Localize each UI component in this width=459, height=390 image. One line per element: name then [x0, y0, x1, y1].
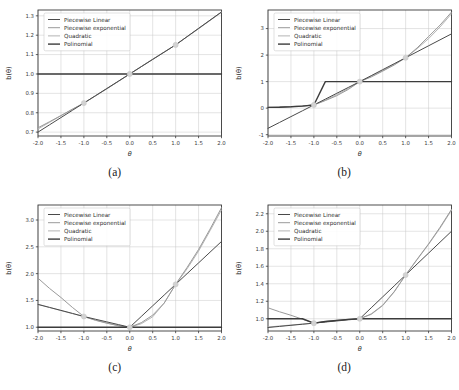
svg-text:-1.0: -1.0	[308, 335, 319, 341]
svg-text:2.0: 2.0	[217, 140, 226, 146]
panel-caption-b: (b)	[230, 166, 459, 178]
svg-text:-0.5: -0.5	[331, 140, 342, 146]
svg-text:1.5: 1.5	[194, 335, 203, 341]
panel-a: -2.0-1.5-1.0-0.50.00.51.01.52.00.70.80.9…	[0, 0, 230, 195]
svg-text:-2.0: -2.0	[262, 335, 273, 341]
svg-text:-0.5: -0.5	[102, 140, 113, 146]
plot-area-c: -2.0-1.5-1.0-0.50.00.51.01.52.01.01.52.0…	[0, 195, 230, 363]
svg-text:Quadratic: Quadratic	[64, 228, 91, 234]
svg-text:b(θ): b(θ)	[235, 261, 243, 274]
svg-text:θ: θ	[128, 150, 132, 158]
svg-text:θ: θ	[357, 150, 361, 158]
svg-text:2.5: 2.5	[25, 244, 34, 250]
svg-text:θ: θ	[128, 345, 132, 353]
svg-text:-1: -1	[258, 132, 263, 138]
svg-text:0.0: 0.0	[355, 140, 364, 146]
panel-caption-c: (c)	[0, 361, 230, 373]
svg-text:b(θ): b(θ)	[5, 66, 13, 79]
svg-text:-0.5: -0.5	[102, 335, 113, 341]
svg-text:2.0: 2.0	[255, 228, 264, 234]
svg-text:1.5: 1.5	[194, 140, 203, 146]
svg-text:1.2: 1.2	[25, 32, 34, 38]
svg-text:Piecewise Linear: Piecewise Linear	[294, 17, 341, 23]
svg-text:1.8: 1.8	[255, 246, 264, 252]
svg-text:2.0: 2.0	[447, 335, 456, 341]
svg-text:-2.0: -2.0	[33, 335, 44, 341]
svg-text:1.3: 1.3	[25, 13, 34, 19]
svg-text:1.5: 1.5	[424, 335, 433, 341]
svg-text:1.0: 1.0	[401, 140, 410, 146]
svg-text:0.7: 0.7	[25, 129, 34, 135]
svg-text:0.0: 0.0	[125, 140, 134, 146]
svg-text:Piecewise Linear: Piecewise Linear	[64, 17, 111, 23]
svg-text:1.0: 1.0	[171, 140, 180, 146]
svg-text:1.0: 1.0	[25, 71, 34, 77]
svg-text:0.0: 0.0	[355, 335, 364, 341]
svg-text:-2.0: -2.0	[262, 140, 273, 146]
svg-text:Piecewise Linear: Piecewise Linear	[64, 212, 111, 218]
svg-text:0.5: 0.5	[378, 335, 387, 341]
panel-d: -2.0-1.5-1.0-0.50.00.51.01.52.01.01.21.4…	[230, 195, 459, 390]
plot-area-b: -2.0-1.5-1.0-0.50.00.51.01.52.0-10123θb(…	[230, 0, 459, 168]
plot-area-d: -2.0-1.5-1.0-0.50.00.51.01.52.01.01.21.4…	[230, 195, 459, 363]
svg-text:θ: θ	[357, 345, 361, 353]
svg-text:2.2: 2.2	[255, 211, 264, 217]
svg-text:-2.0: -2.0	[33, 140, 44, 146]
svg-text:Piecewise exponential: Piecewise exponential	[294, 220, 356, 227]
svg-text:-1.5: -1.5	[285, 140, 296, 146]
svg-text:0: 0	[260, 105, 264, 111]
svg-text:3.0: 3.0	[25, 217, 34, 223]
panel-caption-a: (a)	[0, 166, 230, 178]
svg-text:2: 2	[260, 52, 263, 58]
svg-text:-1.0: -1.0	[79, 140, 90, 146]
svg-text:2.0: 2.0	[447, 140, 456, 146]
svg-text:-0.5: -0.5	[331, 335, 342, 341]
svg-text:1.0: 1.0	[171, 335, 180, 341]
svg-text:0.0: 0.0	[125, 335, 134, 341]
svg-text:3: 3	[260, 25, 263, 31]
svg-text:Piecewise exponential: Piecewise exponential	[294, 25, 356, 32]
svg-text:b(θ): b(θ)	[5, 261, 13, 274]
svg-text:Piecewise Linear: Piecewise Linear	[294, 212, 341, 218]
svg-text:2.0: 2.0	[217, 335, 226, 341]
svg-text:1.0: 1.0	[25, 324, 34, 330]
svg-text:-1.5: -1.5	[56, 335, 67, 341]
panel-caption-d: (d)	[230, 361, 459, 373]
svg-text:-1.5: -1.5	[285, 335, 296, 341]
svg-text:-1.0: -1.0	[308, 140, 319, 146]
figure-grid: -2.0-1.5-1.0-0.50.00.51.01.52.00.70.80.9…	[0, 0, 459, 390]
svg-text:Quadratic: Quadratic	[294, 228, 321, 234]
svg-text:Quadratic: Quadratic	[294, 33, 321, 39]
svg-text:0.9: 0.9	[25, 90, 34, 96]
svg-text:Piecewise exponential: Piecewise exponential	[64, 25, 126, 32]
svg-text:1.5: 1.5	[424, 140, 433, 146]
plot-area-a: -2.0-1.5-1.0-0.50.00.51.01.52.00.70.80.9…	[0, 0, 230, 168]
svg-text:1.4: 1.4	[255, 281, 264, 287]
svg-text:1.1: 1.1	[25, 51, 34, 57]
svg-text:1.5: 1.5	[25, 297, 34, 303]
svg-text:0.5: 0.5	[148, 335, 157, 341]
svg-text:-1.5: -1.5	[56, 140, 67, 146]
svg-text:Quadratic: Quadratic	[64, 33, 91, 39]
svg-text:-1.0: -1.0	[79, 335, 90, 341]
svg-text:Polinomial: Polinomial	[64, 236, 93, 242]
svg-text:0.8: 0.8	[25, 110, 34, 116]
svg-text:0.5: 0.5	[378, 140, 387, 146]
svg-text:1.0: 1.0	[401, 335, 410, 341]
svg-text:Polinomial: Polinomial	[294, 236, 323, 242]
svg-text:1: 1	[260, 79, 263, 85]
svg-text:2.0: 2.0	[25, 271, 34, 277]
panel-b: -2.0-1.5-1.0-0.50.00.51.01.52.0-10123θb(…	[230, 0, 459, 195]
svg-text:Polinomial: Polinomial	[294, 41, 323, 47]
svg-text:1.2: 1.2	[255, 298, 264, 304]
svg-text:Polinomial: Polinomial	[64, 41, 93, 47]
svg-text:b(θ): b(θ)	[235, 66, 243, 79]
svg-text:Piecewise exponential: Piecewise exponential	[64, 220, 126, 227]
svg-text:0.5: 0.5	[148, 140, 157, 146]
svg-text:1.0: 1.0	[255, 316, 264, 322]
panel-c: -2.0-1.5-1.0-0.50.00.51.01.52.01.01.52.0…	[0, 195, 230, 390]
svg-text:1.6: 1.6	[255, 263, 264, 269]
